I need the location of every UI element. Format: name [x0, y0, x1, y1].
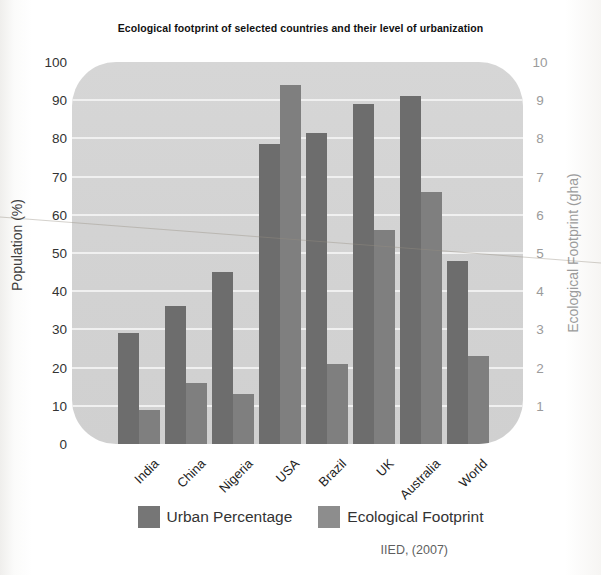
- bar-urban-percentage-usa: [259, 144, 280, 444]
- legend: Urban Percentage Ecological Footprint: [20, 506, 601, 528]
- right-tick-4: 4: [526, 284, 554, 299]
- category-label-india: India: [131, 456, 162, 487]
- bar-ecological-footprint-uk: [374, 230, 395, 444]
- right-tick-7: 7: [526, 169, 554, 184]
- left-tick-30: 30: [0, 322, 67, 337]
- right-tick-6: 6: [526, 207, 554, 222]
- legend-label-urban-percentage: Urban Percentage: [167, 508, 293, 526]
- left-axis-ticks: 0102030405060708090100: [0, 62, 67, 444]
- right-tick-9: 9: [526, 93, 554, 108]
- bar-ecological-footprint-brazil: [327, 364, 348, 444]
- right-axis-title: Ecological Footprint (gha): [565, 173, 581, 333]
- bar-urban-percentage-uk: [353, 104, 374, 444]
- legend-label-ecological-footprint: Ecological Footprint: [347, 508, 483, 526]
- bar-ecological-footprint-china: [186, 383, 207, 444]
- left-tick-40: 40: [0, 284, 67, 299]
- bar-urban-percentage-brazil: [306, 133, 327, 444]
- bar-urban-percentage-nigeria: [212, 272, 233, 444]
- left-tick-20: 20: [0, 360, 67, 375]
- legend-swatch-ecological-footprint: [318, 506, 340, 528]
- right-tick-3: 3: [526, 322, 554, 337]
- category-label-uk: UK: [373, 456, 396, 479]
- legend-item-ecological-footprint: Ecological Footprint: [318, 506, 483, 528]
- left-tick-70: 70: [0, 169, 67, 184]
- bar-urban-percentage-australia: [400, 96, 421, 444]
- bar-ecological-footprint-australia: [421, 192, 442, 444]
- right-tick-1: 1: [526, 398, 554, 413]
- bar-urban-percentage-china: [165, 306, 186, 444]
- source-citation: IIED, (2007): [381, 543, 448, 557]
- chart-page: Ecological footprint of selected countri…: [0, 0, 601, 575]
- category-label-china: China: [174, 456, 209, 491]
- bar-urban-percentage-india: [118, 333, 139, 444]
- left-tick-10: 10: [0, 398, 67, 413]
- bar-ecological-footprint-india: [139, 410, 160, 444]
- right-tick-5: 5: [526, 246, 554, 261]
- category-label-australia: Australia: [397, 456, 443, 502]
- right-tick-8: 8: [526, 131, 554, 146]
- left-tick-60: 60: [0, 207, 67, 222]
- bar-ecological-footprint-world: [468, 356, 489, 444]
- right-tick-10: 10: [526, 55, 554, 70]
- left-tick-0: 0: [0, 437, 67, 452]
- category-label-nigeria: Nigeria: [216, 456, 256, 496]
- left-tick-90: 90: [0, 93, 67, 108]
- category-label-usa: USA: [273, 456, 303, 486]
- right-axis-ticks: 12345678910: [526, 62, 554, 444]
- legend-swatch-urban-percentage: [138, 506, 160, 528]
- left-tick-50: 50: [0, 246, 67, 261]
- category-label-brazil: Brazil: [316, 456, 350, 490]
- bar-ecological-footprint-nigeria: [233, 394, 254, 444]
- left-tick-80: 80: [0, 131, 67, 146]
- left-tick-100: 100: [0, 55, 67, 70]
- right-tick-2: 2: [526, 360, 554, 375]
- bar-urban-percentage-world: [447, 261, 468, 444]
- legend-item-urban-percentage: Urban Percentage: [138, 506, 293, 528]
- bar-ecological-footprint-usa: [280, 85, 301, 444]
- chart-title: Ecological footprint of selected countri…: [0, 22, 601, 34]
- plot-area: [72, 62, 523, 444]
- category-label-world: World: [456, 456, 490, 490]
